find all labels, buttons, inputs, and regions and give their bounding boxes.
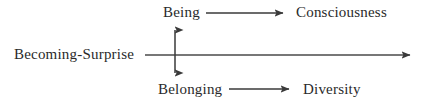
node-label-being: Being xyxy=(163,5,200,20)
node-label-becoming-surprise: Becoming-Surprise xyxy=(14,47,134,62)
node-label-belonging: Belonging xyxy=(158,82,222,97)
concept-diagram: Becoming-Surprise Being Consciousness Be… xyxy=(0,0,424,106)
node-label-consciousness: Consciousness xyxy=(296,5,387,20)
node-label-diversity: Diversity xyxy=(303,82,361,97)
